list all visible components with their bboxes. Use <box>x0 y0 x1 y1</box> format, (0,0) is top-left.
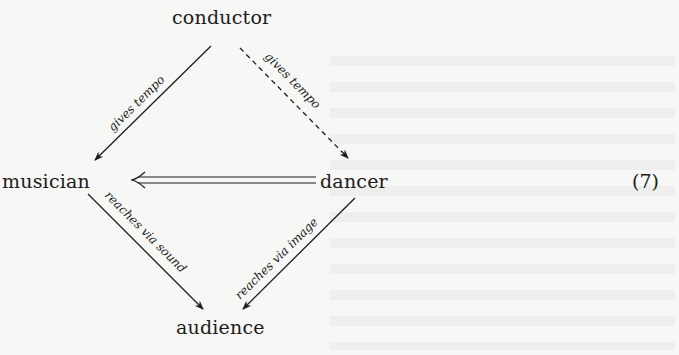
edge-conductor-musician: gives tempo <box>95 46 211 160</box>
edge-label-gives-tempo-left: gives tempo <box>105 73 167 135</box>
equation-number: (7) <box>632 172 659 191</box>
edge-label-reaches-via-sound: reaches via sound <box>102 188 190 276</box>
edge-conductor-dancer: gives tempo <box>240 48 348 158</box>
node-audience: audience <box>176 318 265 337</box>
node-dancer: dancer <box>320 172 388 191</box>
node-conductor: conductor <box>172 8 271 27</box>
edge-dancer-audience: reaches via image <box>232 198 355 309</box>
edge-musician-audience: reaches via sound <box>88 188 203 309</box>
node-musician: musician <box>2 172 90 191</box>
edge-label-reaches-via-image: reaches via image <box>232 215 320 302</box>
edge-dancer-musician-double <box>131 172 316 188</box>
